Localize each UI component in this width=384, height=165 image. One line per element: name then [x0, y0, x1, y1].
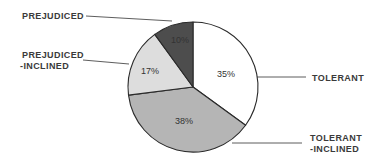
leader-line-prejudiced-inclined [83, 60, 129, 64]
pie-chart: 35% 38% 17% 10% TOLERANT TOLERANT -INCLI… [0, 0, 384, 165]
label-tolerant: TOLERANT [312, 73, 364, 83]
label-prejudiced-inclined-line1: PREJUDICED [22, 50, 84, 60]
pct-tolerant-inclined: 38% [175, 116, 193, 126]
pie-slices [128, 22, 258, 152]
label-prejudiced-inclined-line2: -INCLINED [20, 61, 69, 71]
pct-prejudiced-inclined: 17% [141, 66, 159, 76]
leader-line-prejudiced [86, 16, 172, 21]
label-prejudiced: PREJUDICED [22, 11, 84, 21]
label-tolerant-inclined-line2: -INCLINED [310, 144, 359, 154]
pct-prejudiced: 10% [171, 35, 189, 45]
pct-tolerant: 35% [217, 69, 235, 79]
label-tolerant-inclined-line1: TOLERANT [310, 133, 362, 143]
